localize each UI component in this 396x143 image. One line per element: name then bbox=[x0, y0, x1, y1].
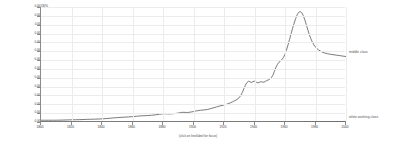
x-axis-tick-mark bbox=[345, 122, 346, 125]
gridline-vertical bbox=[133, 7, 134, 121]
x-axis-tick-label: 1960 bbox=[269, 126, 299, 130]
x-axis-tick-mark bbox=[223, 122, 224, 125]
x-axis-tick-mark bbox=[284, 122, 285, 125]
x-axis-tick-mark bbox=[162, 122, 163, 125]
gridline-vertical bbox=[163, 7, 164, 121]
x-axis-tick-label: 2000 bbox=[330, 126, 360, 130]
x-axis-tick-label: 1840 bbox=[86, 126, 116, 130]
x-axis-tick-label: 1920 bbox=[208, 126, 238, 130]
x-axis-tick-mark bbox=[71, 122, 72, 125]
gridline-vertical bbox=[316, 7, 317, 121]
gridline-vertical bbox=[72, 7, 73, 121]
x-axis-tick-label: 1900 bbox=[178, 126, 208, 130]
series-label-middle-class[interactable]: middle class bbox=[349, 51, 368, 55]
x-axis-tick-label: 1980 bbox=[300, 126, 330, 130]
gridline-vertical bbox=[102, 7, 103, 121]
x-axis-tick-label: 1820 bbox=[56, 126, 86, 130]
gridline-vertical bbox=[346, 7, 347, 121]
series-label-white-working-class[interactable]: white working class bbox=[349, 116, 378, 120]
x-axis-tick-mark bbox=[315, 122, 316, 125]
gridline-vertical bbox=[194, 7, 195, 121]
gridline-vertical bbox=[255, 7, 256, 121]
ngram-chart: 0.00130%0.00120%0.00110%0.00100%0.00090%… bbox=[0, 0, 396, 143]
x-axis-tick-mark bbox=[101, 122, 102, 125]
x-axis-tick-label: 1800 bbox=[25, 126, 55, 130]
plot-area bbox=[40, 7, 345, 122]
line-white-working-class[interactable] bbox=[41, 121, 346, 122]
x-axis-tick-label: 1860 bbox=[117, 126, 147, 130]
x-axis-tick-mark bbox=[132, 122, 133, 125]
x-axis-tick-label: 1940 bbox=[239, 126, 269, 130]
x-axis-tick-mark bbox=[254, 122, 255, 125]
x-axis-tick-mark bbox=[193, 122, 194, 125]
x-axis-caption: (click on line/label for focus) bbox=[0, 134, 396, 138]
x-axis-tick-label: 1880 bbox=[147, 126, 177, 130]
x-axis-tick-mark bbox=[40, 122, 41, 125]
gridline-vertical bbox=[285, 7, 286, 121]
gridline-vertical bbox=[224, 7, 225, 121]
